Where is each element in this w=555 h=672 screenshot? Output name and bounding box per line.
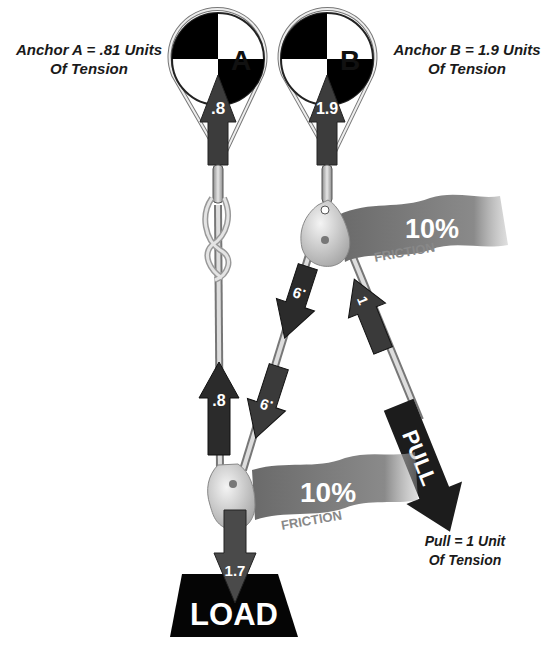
anchor-b: B 1.9	[280, 9, 376, 203]
pulley-system-diagram: A .8 B 1.9 10% FRICTION	[0, 0, 555, 672]
anchor-b-carabiner	[322, 165, 332, 203]
anchor-b-letter: B	[340, 45, 360, 76]
pull-strand-arrow: 1	[336, 272, 402, 358]
anchor-a-quadrant-tl	[172, 13, 218, 59]
left-strand-arrow: .8	[199, 362, 239, 455]
anchor-b-quadrant-tl	[281, 13, 327, 59]
bottom-friction-percent: 10%	[300, 477, 356, 508]
load-label: LOAD	[190, 597, 278, 632]
middle-lower-arrow: .9	[237, 361, 298, 445]
bottom-pulley-axle	[229, 480, 237, 488]
anchor-b-force-value: 1.9	[316, 100, 338, 117]
middle-upper-arrow: .9	[266, 261, 327, 345]
anchor-a-letter: A	[231, 45, 251, 76]
anchor-a-force-value: .8	[211, 99, 225, 118]
anchor-a: A .8	[170, 9, 266, 203]
load-force-value: 1.7	[225, 562, 246, 579]
left-strand-value: .8	[212, 392, 225, 409]
top-pulley-axle	[321, 236, 329, 244]
top-pulley-group: 10% FRICTION	[301, 195, 508, 267]
load-group: LOAD 1.7	[170, 510, 298, 637]
anchor-a-carabiner	[213, 165, 223, 203]
